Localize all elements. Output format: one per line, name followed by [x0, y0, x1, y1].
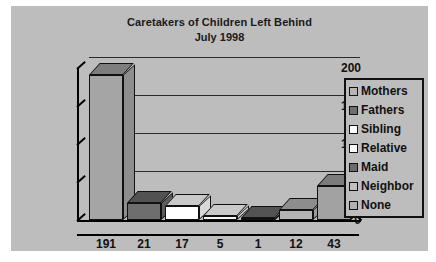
- legend-swatch-sibling: [349, 125, 358, 134]
- legend-item-neighbor[interactable]: Neighbor: [349, 177, 422, 196]
- chart-screenshot: Caretakers of Children Left Behind July …: [0, 0, 436, 262]
- legend-swatch-maid: [349, 163, 358, 172]
- bar-relative[interactable]: [203, 56, 237, 220]
- legend-item-sibling[interactable]: Sibling: [349, 120, 422, 139]
- y-axis-line: [77, 68, 79, 220]
- legend-label-neighbor: Neighbor: [361, 180, 414, 193]
- legend-item-maid[interactable]: Maid: [349, 158, 422, 177]
- x-tick-label-none: 43: [315, 238, 353, 251]
- x-axis-line: [77, 234, 359, 236]
- bar-maid-front: [241, 218, 275, 220]
- legend-label-maid: Maid: [361, 161, 388, 174]
- legend-item-fathers[interactable]: Fathers: [349, 101, 422, 120]
- chart-subtitle: July 1998: [11, 30, 428, 44]
- x-tick-label-neighbor: 12: [277, 238, 315, 251]
- legend-swatch-mothers: [349, 87, 358, 96]
- bar-sibling[interactable]: [165, 56, 199, 220]
- chart-canvas: Caretakers of Children Left Behind July …: [11, 6, 428, 251]
- legend-label-fathers: Fathers: [361, 104, 404, 117]
- legend-label-none: None: [361, 199, 391, 212]
- legend-item-mothers[interactable]: Mothers: [349, 82, 422, 101]
- x-tick-label-sibling: 17: [163, 238, 201, 251]
- bar-sibling-front: [165, 206, 199, 220]
- plot-area: 200 150 100 50 0: [41, 56, 361, 231]
- legend-swatch-neighbor: [349, 182, 358, 191]
- bar-neighbor-front: [279, 210, 313, 220]
- chart-legend: Mothers Fathers Sibling Relative Maid Ne: [344, 78, 424, 218]
- legend-item-relative[interactable]: Relative: [349, 139, 422, 158]
- bar-fathers-front: [127, 203, 161, 220]
- legend-swatch-relative: [349, 144, 358, 153]
- chart-title: Caretakers of Children Left Behind: [11, 15, 428, 29]
- legend-label-relative: Relative: [361, 142, 407, 155]
- legend-swatch-fathers: [349, 106, 358, 115]
- x-tick-label-relative: 5: [201, 238, 239, 251]
- floor-front-edge: [77, 220, 361, 222]
- bar-relative-front: [203, 216, 237, 220]
- legend-label-mothers: Mothers: [361, 85, 408, 98]
- bar-mothers[interactable]: [89, 56, 123, 220]
- x-tick-label-mothers: 191: [85, 238, 127, 251]
- legend-item-none[interactable]: None: [349, 196, 422, 215]
- legend-swatch-none: [349, 201, 358, 210]
- bar-mothers-front: [89, 75, 123, 220]
- x-tick-label-maid: 1: [239, 238, 277, 251]
- bar-neighbor[interactable]: [279, 56, 313, 220]
- bar-maid[interactable]: [241, 56, 275, 220]
- x-tick-label-fathers: 21: [125, 238, 163, 251]
- bar-fathers[interactable]: [127, 56, 161, 220]
- legend-label-sibling: Sibling: [361, 123, 401, 136]
